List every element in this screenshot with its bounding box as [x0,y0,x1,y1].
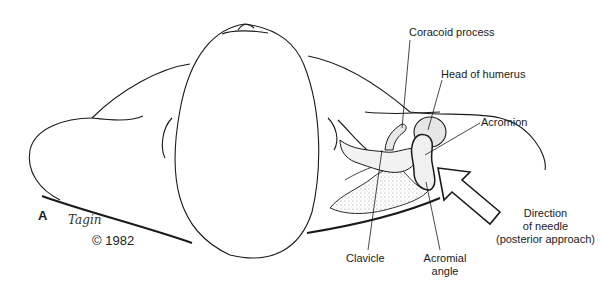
label-coracoid-process: Coracoid process [409,26,495,39]
left-shoulder-outline [29,64,190,200]
coracoid-process-bone [385,124,406,150]
artist-signature: Tagin [68,213,101,227]
label-needle-direction-line2: of needle [488,220,603,233]
label-needle-direction: Direction of needle (posterior approach) [488,207,603,246]
label-acromial-angle: Acromial angle [415,252,475,278]
label-needle-direction-line3: (posterior approach) [488,233,603,246]
leader-coracoid [402,40,410,128]
label-acromial-angle-line2: angle [415,265,475,278]
label-clavicle: Clavicle [346,252,385,265]
acromion-bone [411,134,434,190]
label-acromial-angle-line1: Acromial [415,252,475,265]
label-needle-direction-line1: Direction [488,207,603,220]
label-acromion: Acromion [481,116,527,129]
label-head-of-humerus: Head of humerus [441,68,525,81]
panel-label: A [38,208,47,223]
copyright-notice: © 1982 [92,233,134,248]
head-outline [162,24,337,258]
leader-acromial-angle [426,182,440,250]
